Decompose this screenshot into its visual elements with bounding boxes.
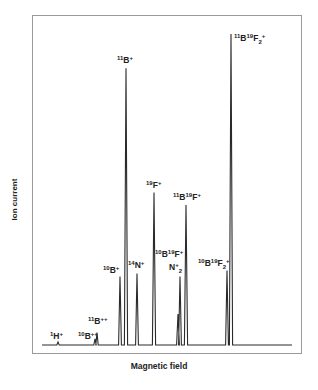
peak-label: 19F+ bbox=[146, 180, 162, 190]
peak-label: 1H+ bbox=[50, 331, 63, 341]
y-axis-label: Ion current bbox=[10, 170, 19, 230]
peak-label: 10B+ bbox=[103, 265, 120, 275]
spectrum-trace bbox=[42, 34, 292, 345]
peak-label: 10B19F2+ bbox=[198, 258, 230, 270]
mass-spectrum-plot: 1H+10B++11B++10B+11B+14N+19F+10B19F+N+21… bbox=[0, 0, 318, 390]
peak-label: 14N+ bbox=[128, 260, 145, 270]
peak-label: N+2 bbox=[169, 262, 183, 274]
peak-label: 11B++ bbox=[88, 316, 108, 326]
peak-label: 11B19F+ bbox=[173, 192, 201, 202]
x-axis-label: Magnetic field bbox=[0, 361, 318, 371]
peak-label: 10B19F+ bbox=[155, 249, 184, 259]
peak-label: 11B19F2+ bbox=[234, 33, 266, 45]
peak-label: 11B+ bbox=[117, 55, 133, 65]
